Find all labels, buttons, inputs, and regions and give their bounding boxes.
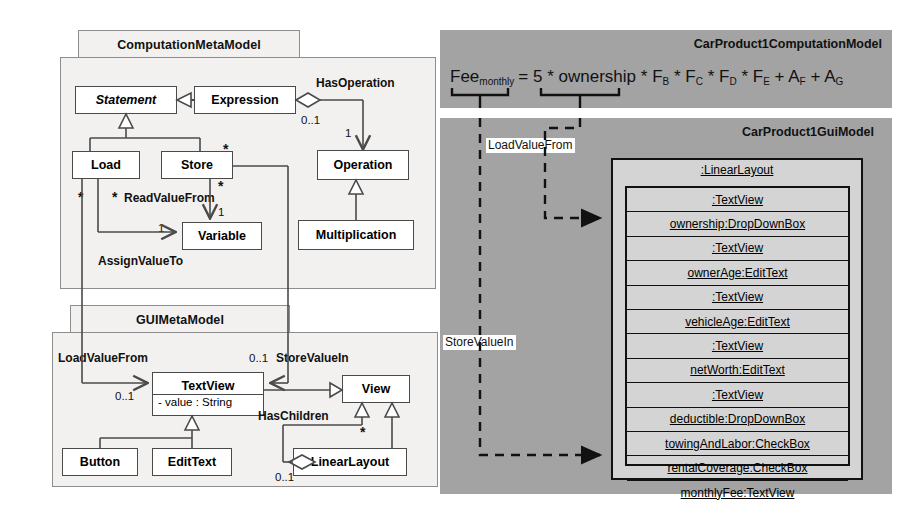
formula-term-4: * <box>641 67 648 86</box>
mult-store-star-right: * <box>223 142 228 156</box>
list-item[interactable]: netWorth:EditText <box>627 359 848 383</box>
formula-term-13-sub: F <box>800 76 806 87</box>
formula-lhs-sub: monthly <box>479 76 514 87</box>
object-child-3: ownerAge:EditText <box>687 266 787 280</box>
label-storevaluein-meta: StoreValueIn <box>276 352 349 364</box>
formula-term-5: F <box>652 67 662 86</box>
class-textview[interactable]: TextView - value : String <box>152 372 264 416</box>
mult-loadvaluefrom-source: 0..1 <box>115 391 134 403</box>
label-readvaluefrom: ReadValueFrom <box>124 192 215 204</box>
mult-hasoperation-target: 1 <box>345 128 351 140</box>
list-item[interactable]: :TextView <box>627 237 848 261</box>
class-multiplication[interactable]: Multiplication <box>298 220 414 250</box>
class-button-name: Button <box>63 454 137 471</box>
panel-title-computationmodel: CarProduct1ComputationModel <box>694 37 882 51</box>
mult-store-star-under: * <box>218 179 223 193</box>
list-item[interactable]: :TextView <box>627 286 848 310</box>
trace-label-storevaluein: StoreValueIn <box>443 335 516 350</box>
class-load-name: Load <box>73 157 139 174</box>
list-item[interactable]: :TextView <box>627 188 848 212</box>
object-child-4: :TextView <box>712 290 763 304</box>
class-statement-name: Statement <box>76 92 176 109</box>
class-textview-name: TextView <box>153 378 263 395</box>
diagram-canvas: ComputationMetaModel Statement Expressio… <box>0 0 897 526</box>
list-item[interactable]: ownerAge:EditText <box>627 261 848 285</box>
mult-load-star: * <box>78 190 83 204</box>
formula-term-7-sub: C <box>696 76 703 87</box>
object-child-5: vehicleAge:EditText <box>685 315 790 329</box>
formula-term-14: + <box>810 67 820 86</box>
panel-title-guimodel: CarProduct1GuiModel <box>742 125 874 139</box>
class-edittext[interactable]: EditText <box>152 448 232 476</box>
formula-term-11: F <box>753 67 763 86</box>
class-textview-attribute: - value : String <box>153 395 263 411</box>
mult-haschildren-source: 0..1 <box>275 472 294 484</box>
formula-term-2: * <box>547 67 554 86</box>
class-statement[interactable]: Statement <box>75 86 177 114</box>
formula-term-3: ownership <box>559 67 637 86</box>
label-haschildren: HasChildren <box>258 410 329 422</box>
formula-term-12: + <box>775 67 785 86</box>
package-title-guimetamodel: GUIMetaModel <box>136 313 224 327</box>
formula-lhs-base: Fee <box>450 67 479 86</box>
trace-label-loadvaluefrom: LoadValueFrom <box>486 138 575 153</box>
object-child-7: netWorth:EditText <box>690 363 785 377</box>
class-button[interactable]: Button <box>62 448 138 476</box>
object-child-10: towingAndLabor:CheckBox <box>665 437 810 451</box>
object-child-6: :TextView <box>712 339 763 353</box>
formula-term-6: * <box>674 67 681 86</box>
object-child-0: :TextView <box>712 193 763 207</box>
class-operation-name: Operation <box>318 157 408 174</box>
class-operation[interactable]: Operation <box>317 150 409 180</box>
formula-term-9: F <box>719 67 729 86</box>
list-item[interactable]: monthlyFee:TextView <box>627 481 848 505</box>
object-child-11: rentalCoverage:CheckBox <box>667 461 807 475</box>
formula-term-0: = <box>518 67 528 86</box>
mult-hasoperation-source: 0..1 <box>301 115 320 127</box>
list-item[interactable]: rentalCoverage:CheckBox <box>627 456 848 480</box>
formula-term-5-sub: B <box>663 76 670 87</box>
package-tab-computationmetamodel: ComputationMetaModel <box>78 30 300 58</box>
object-linearlayout-name: :LinearLayout <box>613 160 861 181</box>
formula-term-9-sub: D <box>729 76 736 87</box>
package-tab-guimetamodel: GUIMetaModel <box>70 305 290 333</box>
object-child-2: :TextView <box>712 241 763 255</box>
formula-term-13: A <box>788 67 799 86</box>
class-variable[interactable]: Variable <box>182 222 262 250</box>
mult-haschildren-star: * <box>360 425 365 439</box>
list-item[interactable]: :TextView <box>627 334 848 358</box>
mult-readvaluefrom-target: 1 <box>218 207 224 219</box>
mult-store-star-left: * <box>112 190 117 204</box>
package-title-computationmetamodel: ComputationMetaModel <box>117 38 261 52</box>
label-hasoperation: HasOperation <box>316 77 395 89</box>
mult-assignvalueto-target: 1 <box>158 223 164 235</box>
class-expression-name: Expression <box>195 92 295 109</box>
label-assignvalueto: AssignValueTo <box>98 255 183 267</box>
object-child-1: ownership:DropDownBox <box>670 217 805 231</box>
class-expression[interactable]: Expression <box>194 86 296 114</box>
object-child-9: deductible:DropDownBox <box>670 412 805 426</box>
class-edittext-name: EditText <box>153 454 231 471</box>
object-child-8: :TextView <box>712 388 763 402</box>
list-item[interactable]: :TextView <box>627 383 848 407</box>
object-child-12: monthlyFee:TextView <box>681 486 795 500</box>
list-item[interactable]: vehicleAge:EditText <box>627 310 848 334</box>
class-linearlayout-name: LinearLayout <box>294 454 406 471</box>
list-item[interactable]: deductible:DropDownBox <box>627 408 848 432</box>
formula-term-7: F <box>685 67 695 86</box>
formula-term-10: * <box>741 67 748 86</box>
class-store-name: Store <box>162 157 232 174</box>
class-load[interactable]: Load <box>72 151 140 179</box>
list-item[interactable]: ownership:DropDownBox <box>627 212 848 236</box>
formula-term-11-sub: E <box>763 76 770 87</box>
list-item[interactable]: towingAndLabor:CheckBox <box>627 432 848 456</box>
label-loadvaluefrom-meta: LoadValueFrom <box>58 352 148 364</box>
formula-monthly-fee: Feemonthly= 5 * ownership * FB * FC * FD… <box>450 68 843 87</box>
class-linearlayout[interactable]: LinearLayout <box>293 448 407 476</box>
formula-term-8: * <box>708 67 715 86</box>
formula-term-15-sub: G <box>836 76 844 87</box>
object-children-container: :TextView ownership:DropDownBox :TextVie… <box>625 186 850 466</box>
formula-term-15: A <box>824 67 835 86</box>
class-variable-name: Variable <box>183 228 261 245</box>
class-view[interactable]: View <box>342 375 410 403</box>
